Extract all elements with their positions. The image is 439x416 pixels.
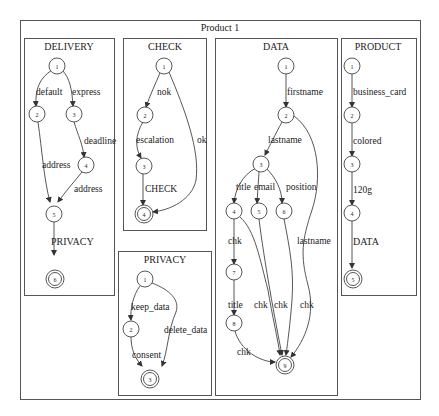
edge-data-6-9 bbox=[284, 219, 293, 355]
node-label: 8 bbox=[233, 321, 236, 327]
node-label: 4 bbox=[143, 212, 146, 218]
node-label: 1 bbox=[163, 64, 166, 70]
node-label: 5 bbox=[352, 277, 355, 283]
cluster-privacy-title: PRIVACY bbox=[144, 254, 187, 265]
node-label: 6 bbox=[54, 277, 57, 283]
edge-label: lastname bbox=[268, 135, 302, 145]
edge-label: chk bbox=[228, 236, 242, 246]
cluster-data-title: DATA bbox=[263, 41, 290, 52]
cluster-delivery-title: DELIVERY bbox=[44, 41, 93, 52]
node-label: 1 bbox=[56, 64, 59, 70]
edge-label: escalation bbox=[136, 135, 174, 145]
node-label: 3 bbox=[351, 162, 354, 168]
outer-cluster-frame bbox=[21, 21, 421, 400]
edge-label: DATA bbox=[353, 236, 380, 247]
graph-title: Product 1 bbox=[201, 22, 240, 33]
edge-label: chk bbox=[300, 300, 314, 310]
node-label: 2 bbox=[144, 113, 147, 119]
node-label: 7 bbox=[233, 270, 236, 276]
node-label: 5 bbox=[258, 209, 261, 215]
edge-label: title bbox=[228, 300, 243, 310]
edge-label: colored bbox=[353, 136, 382, 146]
edge-label: email bbox=[254, 182, 275, 192]
edge-label: chk bbox=[274, 300, 288, 310]
node-label: 2 bbox=[285, 113, 288, 119]
edge-data-4-9 bbox=[240, 217, 280, 355]
node-label: 3 bbox=[143, 164, 146, 170]
node-label: 1 bbox=[144, 277, 147, 283]
edge-label: delete_data bbox=[164, 325, 208, 335]
edge-label: lastname bbox=[297, 236, 331, 246]
edge-label: address bbox=[42, 160, 71, 170]
node-label: 1 bbox=[285, 64, 288, 70]
edge-label: deadline bbox=[84, 136, 116, 146]
edge-label: firstname bbox=[287, 87, 323, 97]
node-label: 1 bbox=[351, 64, 354, 70]
cluster-product: PRODUCT 1 2 3 4 5 business_card colored … bbox=[342, 39, 417, 296]
node-label: 2 bbox=[36, 112, 39, 118]
edge-data-5-9 bbox=[259, 219, 282, 355]
edge-label: PRIVACY bbox=[51, 236, 94, 247]
cluster-check-title: CHECK bbox=[148, 41, 183, 52]
edge-label: address bbox=[74, 184, 103, 194]
node-label: 3 bbox=[73, 112, 76, 118]
cluster-check: CHECK 1 2 3 4 nok escalation CHECK ok bbox=[124, 39, 207, 231]
node-label: 6 bbox=[283, 209, 286, 215]
node-label: 9 bbox=[284, 363, 287, 369]
node-label: 4 bbox=[233, 209, 236, 215]
node-label: 4 bbox=[85, 163, 88, 169]
node-label: 4 bbox=[351, 211, 354, 217]
edge-label: title bbox=[236, 182, 251, 192]
node-label: 3 bbox=[149, 377, 152, 383]
edge-label: business_card bbox=[353, 87, 407, 97]
product-graph: Product 1 DELIVERY 1 2 3 4 5 6 default e… bbox=[0, 0, 439, 416]
node-label: 3 bbox=[260, 162, 263, 168]
edge-label: nok bbox=[157, 87, 172, 97]
edge-label: express bbox=[72, 87, 101, 97]
edge-label: ok bbox=[197, 135, 207, 145]
edge-label: keep_data bbox=[131, 302, 170, 312]
node-label: 2 bbox=[351, 113, 354, 119]
edge-label: default bbox=[36, 87, 63, 97]
node-label: 5 bbox=[53, 212, 56, 218]
cluster-product-title: PRODUCT bbox=[355, 41, 402, 52]
edge-label: position bbox=[286, 182, 317, 192]
edge-label: chk bbox=[237, 347, 251, 357]
edge-label: CHECK bbox=[145, 184, 177, 194]
edge-label: 120g bbox=[353, 185, 372, 195]
node-label: 2 bbox=[130, 327, 133, 333]
cluster-privacy: PRIVACY 1 2 3 keep_data consent delete_d… bbox=[119, 252, 212, 396]
edge-delivery-3-4 bbox=[74, 122, 84, 157]
edge-label: chk bbox=[254, 300, 268, 310]
cluster-delivery: DELIVERY 1 2 3 4 5 6 default express dea… bbox=[25, 39, 117, 296]
edge-label: consent bbox=[132, 350, 161, 360]
cluster-data: DATA 1 2 3 4 5 6 7 8 9 firstname lastnam… bbox=[216, 39, 338, 396]
